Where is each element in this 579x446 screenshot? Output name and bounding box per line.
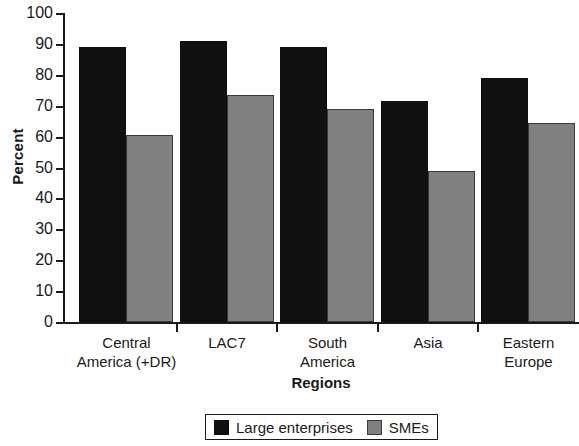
bar-large-enterprises <box>280 47 327 322</box>
y-axis-tick-label: 60 <box>11 129 53 145</box>
y-axis-tick-label: 30 <box>11 221 53 237</box>
y-axis-line <box>63 13 65 323</box>
x-axis-tick <box>276 324 278 332</box>
y-axis-tick <box>56 13 63 15</box>
bar-large-enterprises <box>79 47 126 322</box>
y-axis-tick <box>56 75 63 77</box>
y-axis-tick <box>56 44 63 46</box>
y-axis-tick-label: 70 <box>11 98 53 114</box>
bar-smes <box>327 109 374 322</box>
bar-large-enterprises <box>481 78 528 322</box>
bar-chart-figure: Percent 1009080706050403020100 Central A… <box>0 0 579 446</box>
gray-swatch-icon <box>367 420 382 435</box>
bar-smes <box>528 123 575 322</box>
y-axis-tick <box>56 168 63 170</box>
y-axis-tick <box>56 198 63 200</box>
y-axis-tick <box>56 229 63 231</box>
y-axis-tick-label: 40 <box>11 190 53 206</box>
y-axis-tick <box>56 322 63 324</box>
x-axis-tick <box>176 324 178 332</box>
y-axis-tick-label: 20 <box>11 252 53 268</box>
x-axis-title: Regions <box>63 374 579 391</box>
x-axis-line <box>63 322 579 324</box>
y-axis-tick <box>56 106 63 108</box>
y-axis-tick-label: 10 <box>11 283 53 299</box>
legend-label-smes: SMEs <box>389 420 429 435</box>
x-axis-group-label: Eastern Europe <box>459 333 579 371</box>
legend-label-large-enterprises: Large enterprises <box>236 420 353 435</box>
y-axis-tick-label: 80 <box>11 67 53 83</box>
bar-large-enterprises <box>180 41 227 322</box>
chart-legend: Large enterprises SMEs <box>205 414 438 440</box>
black-swatch-icon <box>214 420 229 435</box>
bar-smes <box>126 135 173 322</box>
plot-area <box>63 13 579 322</box>
legend-entry-smes: SMEs <box>367 420 429 435</box>
y-axis-tick-label: 0 <box>11 314 53 330</box>
y-axis-tick-label: 90 <box>11 36 53 52</box>
y-axis-tick <box>56 260 63 262</box>
y-axis-tick-label: 100 <box>11 5 53 21</box>
y-axis-tick <box>56 291 63 293</box>
x-axis-tick <box>377 324 379 332</box>
x-axis-tick <box>477 324 479 332</box>
legend-entry-large-enterprises: Large enterprises <box>214 420 353 435</box>
bar-smes <box>428 171 475 322</box>
bar-smes <box>227 95 274 322</box>
bar-large-enterprises <box>381 101 428 322</box>
y-axis-tick-label: 50 <box>11 160 53 176</box>
y-axis-tick <box>56 137 63 139</box>
